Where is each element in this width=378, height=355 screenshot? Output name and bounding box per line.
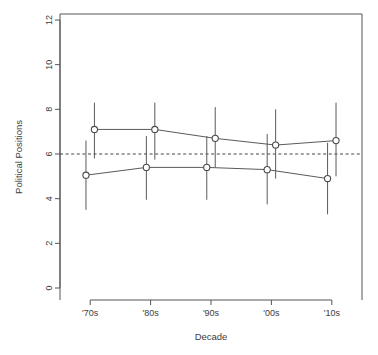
x-tick-label: '00s xyxy=(263,308,280,318)
x-tick-label: '80s xyxy=(142,308,159,318)
data-point xyxy=(324,175,330,181)
y-tick-label: 6 xyxy=(44,151,54,156)
political-positions-chart: 024681012 '70s'80s'90s'00s'10s Political… xyxy=(0,0,378,355)
y-tick-label: 4 xyxy=(44,196,54,201)
x-axis-title: Decade xyxy=(195,331,228,342)
y-axis-title: Political Positions xyxy=(13,120,24,194)
y-tick-label: 10 xyxy=(44,60,54,70)
data-point xyxy=(91,126,97,132)
data-point xyxy=(143,164,149,170)
x-tick-label: '10s xyxy=(324,308,341,318)
y-tick-label: 8 xyxy=(44,107,54,112)
data-point xyxy=(152,126,158,132)
x-tick-label: '70s xyxy=(82,308,99,318)
y-tick-label: 0 xyxy=(44,285,54,290)
y-tick-label: 2 xyxy=(44,241,54,246)
y-tick-label: 12 xyxy=(44,15,54,25)
data-point xyxy=(273,142,279,148)
data-point xyxy=(333,138,339,144)
chart-container: 024681012 '70s'80s'90s'00s'10s Political… xyxy=(0,0,378,355)
data-point xyxy=(83,172,89,178)
data-point xyxy=(212,135,218,141)
x-tick-label: '90s xyxy=(203,308,220,318)
data-point xyxy=(264,167,270,173)
data-point xyxy=(204,164,210,170)
